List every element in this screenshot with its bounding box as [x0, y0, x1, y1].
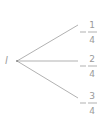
numerator-3: 3 — [87, 92, 97, 101]
branch-line-1 — [17, 25, 78, 61]
root-label: l — [5, 56, 8, 65]
denominator-1: 4 — [87, 36, 97, 45]
denominator-2: 4 — [87, 70, 97, 79]
numerator-2: 2 — [87, 55, 97, 64]
denominator-3: 4 — [87, 107, 97, 116]
root-node — [16, 60, 18, 62]
branch-line-3 — [17, 61, 78, 98]
numerator-1: 1 — [87, 21, 97, 30]
